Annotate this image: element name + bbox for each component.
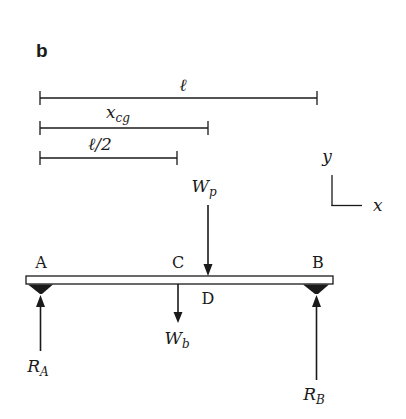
wp-arrowhead-icon: [204, 264, 213, 276]
force-ra: RA: [26, 295, 49, 379]
x-axis-label: x: [373, 195, 383, 215]
point-b-label: B: [312, 253, 324, 272]
point-d-label: D: [202, 289, 215, 308]
length-label: ℓ: [179, 75, 186, 95]
wp-label: Wp: [191, 176, 216, 199]
rb-label: RB: [302, 384, 325, 407]
support-a-icon: [28, 285, 53, 295]
wb-arrowhead-icon: [174, 312, 183, 323]
point-a-label: A: [34, 253, 47, 272]
y-axis-label: y: [321, 146, 332, 166]
ra-arrowhead-icon: [36, 295, 45, 307]
point-c-label: C: [172, 253, 184, 272]
dimension-xcg: xcg: [40, 102, 208, 135]
force-wb: Wb: [164, 284, 189, 351]
support-b-icon: [303, 285, 329, 295]
dimension-length: ℓ: [40, 75, 317, 105]
panel-label: b: [36, 40, 48, 61]
wb-label: Wb: [164, 328, 189, 351]
rb-arrowhead-icon: [312, 295, 321, 307]
xcg-label: xcg: [106, 102, 130, 125]
beam: [26, 276, 333, 284]
coordinate-axes: y x: [321, 146, 383, 215]
force-rb: RB: [302, 295, 325, 407]
half-length-label: ℓ/2: [88, 134, 112, 154]
ra-label: RA: [26, 356, 49, 379]
beam-diagram: b ℓ xcg ℓ/2 y x A C B D Wp: [0, 0, 406, 419]
dimension-half-length: ℓ/2: [40, 134, 177, 165]
force-wp: Wp: [191, 176, 216, 276]
